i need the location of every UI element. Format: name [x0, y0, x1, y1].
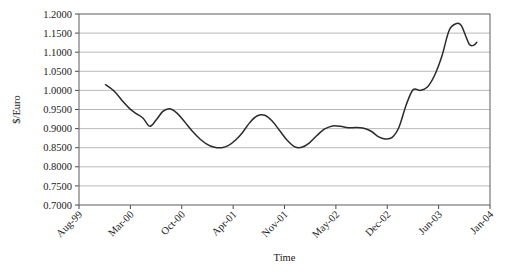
x-tick-label: Mar-00 [106, 209, 136, 239]
x-tick-label: May-02 [310, 209, 341, 240]
y-tick-label: 0.8000 [43, 161, 72, 172]
y-tick-label: 1.1500 [43, 28, 72, 39]
x-tick-label: Apr-01 [209, 209, 238, 238]
x-tick-label: Jun-03 [416, 209, 444, 237]
y-tick-label: 1.1000 [43, 47, 72, 58]
y-tick-label: 1.2000 [43, 9, 72, 20]
y-tick-label: 1.0000 [43, 85, 72, 96]
figure-container: 0.70000.75000.80000.85000.90000.95001.00… [0, 0, 505, 278]
y-tick-label: 0.7500 [43, 181, 72, 192]
exchange-rate-line-chart: 0.70000.75000.80000.85000.90000.95001.00… [0, 0, 505, 278]
x-axis-title: Time [274, 252, 296, 263]
y-tick-label: 0.9000 [43, 123, 72, 134]
y-tick-label: 0.9500 [43, 104, 72, 115]
y-tick-label: 1.0500 [43, 66, 72, 77]
x-tick-label: Jan-04 [468, 208, 496, 236]
y-tick-label: 0.8500 [43, 142, 72, 153]
x-tick-label: Aug-99 [54, 209, 84, 239]
y-axis-tick-labels: 0.70000.75000.80000.85000.90000.95001.00… [43, 9, 72, 211]
y-axis-title: $/Euro [11, 95, 22, 124]
y-axis-ticks [75, 14, 79, 205]
x-tick-label: Dec-02 [363, 209, 393, 239]
y-tick-label: 0.7000 [43, 200, 72, 211]
x-axis-ticks [79, 205, 490, 209]
x-tick-label: Oct-00 [159, 209, 187, 237]
x-tick-label: Nov-01 [259, 209, 289, 239]
x-axis-tick-labels: Aug-99Mar-00Oct-00Apr-01Nov-01May-02Dec-… [54, 208, 496, 240]
